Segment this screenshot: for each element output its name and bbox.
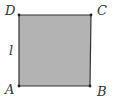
vertex-C-point	[90, 14, 93, 17]
label-D: D	[5, 4, 15, 17]
vertex-B-point	[89, 85, 92, 88]
square-diagram: D C A B l	[0, 0, 116, 101]
square-ABCD	[19, 15, 91, 86]
label-side-length: l	[9, 44, 13, 57]
label-B: B	[97, 85, 107, 98]
label-A: A	[5, 83, 14, 96]
vertex-A-point	[18, 85, 21, 88]
vertex-D-point	[18, 14, 21, 17]
label-C: C	[97, 4, 107, 17]
